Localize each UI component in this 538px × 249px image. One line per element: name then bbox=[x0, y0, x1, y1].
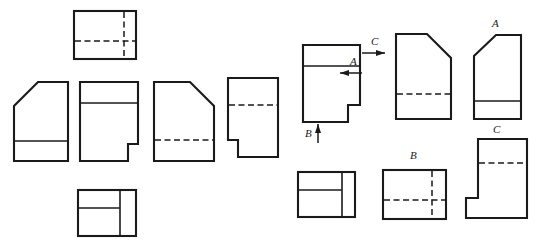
figure-left-notch-block bbox=[228, 78, 278, 157]
label-arrow-b: B bbox=[305, 128, 312, 139]
figure-left-front-chamfer bbox=[14, 82, 68, 161]
label-view-b: B bbox=[410, 150, 417, 161]
label-view-c: C bbox=[493, 124, 500, 135]
arrow-c-indicator bbox=[362, 50, 385, 56]
figure-right-bottom-left bbox=[298, 172, 355, 217]
figure-view-c bbox=[466, 139, 527, 218]
arrow-b-indicator bbox=[315, 124, 321, 143]
technical-drawing-svg bbox=[0, 0, 538, 249]
figure-view-a bbox=[474, 35, 521, 119]
arrow-a-indicator bbox=[340, 70, 362, 76]
label-arrow-a: A bbox=[350, 56, 357, 67]
figure-left-chamfer-hidden bbox=[154, 82, 214, 161]
label-arrow-c: C bbox=[371, 36, 378, 47]
figure-right-chamfer-view bbox=[396, 34, 451, 119]
figure-view-b bbox=[383, 170, 446, 219]
figure-left-bottom-view bbox=[78, 190, 136, 236]
drawing-canvas: C A B A B C bbox=[0, 0, 538, 249]
figure-left-top-view bbox=[74, 11, 136, 59]
figure-left-stepped-block bbox=[80, 82, 138, 161]
label-view-a: A bbox=[492, 18, 499, 29]
